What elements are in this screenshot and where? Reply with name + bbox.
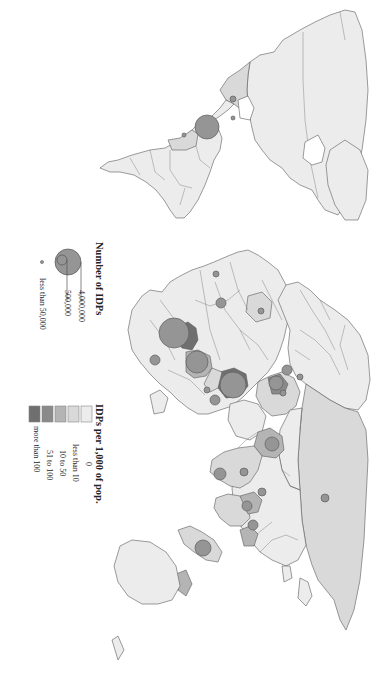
idp-bubble-iraq (269, 376, 283, 390)
legend-size-label-2: less than 50,000 (38, 278, 47, 330)
idp-bubble-dr-congo (186, 351, 208, 373)
legend-idps-per-1000: IDPs per 1,000 of pop. 0 less than 10 10… (29, 404, 105, 504)
australia (114, 540, 180, 604)
idp-bubble-turkey (282, 365, 292, 375)
idp-bubble-kenya (204, 387, 210, 393)
north-america (210, 10, 368, 220)
idp-bubble-bangladesh (258, 488, 266, 496)
idp-bubble-c-te-d-ivoire (213, 271, 219, 277)
idp-bubble-india (240, 468, 248, 476)
legend-number-of-idps: Number of IDPs 4,000,000 500,000 less th… (38, 242, 105, 330)
legend-circle-lt50000 (40, 260, 43, 263)
legend-size-title: Number of IDPs (94, 242, 105, 315)
idp-bubble-algeria (258, 308, 264, 314)
idp-bubble-myanmar (242, 501, 252, 511)
legend-color-swatches (29, 406, 92, 422)
legend-swatch-1 (68, 406, 79, 422)
legend-color-title: IDPs per 1,000 of pop. (94, 404, 105, 504)
idp-bubble-russia (321, 494, 329, 502)
idp-bubble-nigeria (216, 298, 226, 308)
legend-color-label-1: less than 10 (71, 444, 80, 482)
idp-bubble-georgia-azerbaijan (297, 374, 303, 380)
idp-bubble-guatemala (230, 96, 236, 102)
madagascar (150, 390, 168, 414)
legend-size-label-1: 500,000 (63, 290, 72, 316)
idp-bubble-afghanistan (265, 437, 279, 451)
idp-bubble-sri-lanka (214, 468, 226, 480)
legend-size-label-0: 4,000,000 (77, 290, 86, 322)
idp-world-map: Number of IDPs 4,000,000 500,000 less th… (0, 0, 378, 688)
idp-bubble-mexico (231, 116, 235, 120)
map-canvas: Number of IDPs 4,000,000 500,000 less th… (0, 0, 378, 688)
legend-color-label-0: 0 (84, 462, 93, 466)
idp-bubble-peru (182, 133, 186, 137)
legend-color-label-3: 51 to 100 (45, 450, 54, 480)
idp-bubble-lebanon (280, 390, 286, 396)
legend-swatch-4 (29, 406, 40, 422)
korea (282, 566, 292, 582)
oceania (112, 526, 258, 660)
new-zealand (112, 636, 124, 660)
idp-bubble-indonesia (195, 540, 211, 556)
idp-bubble-uganda (220, 372, 246, 398)
legend-swatch-3 (42, 406, 53, 422)
legend-swatch-0 (81, 406, 92, 422)
idp-bubble-philippines (248, 520, 258, 530)
idp-bubble-sudan (159, 318, 189, 348)
legend-swatch-2 (55, 406, 66, 422)
legend-circle-500000 (57, 255, 67, 265)
idp-bubble-colombia (195, 115, 219, 139)
legend-color-label-2: 10 to 50 (58, 450, 67, 476)
japan (298, 578, 312, 606)
legend-color-label-4: more than 100 (32, 426, 41, 472)
idp-bubble-zimbabwe (150, 355, 160, 365)
idp-bubble-somalia (210, 395, 220, 405)
